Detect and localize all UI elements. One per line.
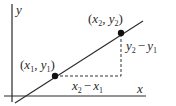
x-axis-label: x [136, 81, 143, 96]
rise-label: y2−y1 [124, 38, 157, 55]
slope-diagram: y x (x2, y2) (x1, y1) y2−y1 x2−x1 [0, 0, 176, 106]
y-axis-label: y [14, 2, 22, 17]
run-label: x2−x1 [71, 78, 103, 95]
point-2-marker [118, 30, 124, 36]
point-1-marker [52, 73, 58, 79]
point-1-label: (x1, y1) [20, 57, 55, 74]
point-2-label: (x2, y2) [88, 11, 123, 28]
